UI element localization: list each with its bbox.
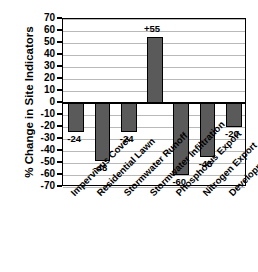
y-tick-label: -50 — [15, 157, 55, 167]
y-tick-label: -20 — [15, 121, 55, 131]
y-tick-label: 10 — [15, 85, 55, 95]
y-tick-label: 60 — [15, 25, 55, 35]
y-tick-label: 20 — [15, 73, 55, 83]
y-tick-label: -40 — [15, 145, 55, 155]
y-tick-label: 50 — [15, 37, 55, 47]
y-tick-label: -30 — [15, 133, 55, 143]
bar-value-label: +55 — [144, 24, 160, 34]
chart-figure: % Change in Site Indicators 706050403020… — [0, 0, 258, 272]
y-tick-label: 40 — [15, 49, 55, 59]
bar-value-label: -24 — [67, 134, 81, 144]
y-tick-label: -70 — [15, 181, 55, 191]
y-tick-label: 70 — [15, 13, 55, 23]
y-tick-label: 30 — [15, 61, 55, 71]
y-tick-label: -10 — [15, 109, 55, 119]
y-tick-label: -60 — [15, 169, 55, 179]
y-tick-label: 0 — [15, 97, 55, 107]
